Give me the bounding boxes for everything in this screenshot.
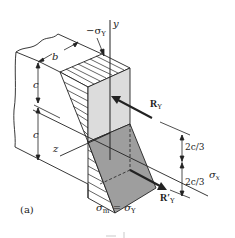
x-axis-label: σx xyxy=(209,169,220,182)
c-lower-label: c xyxy=(33,129,39,140)
cropped-next-figure-fragment xyxy=(106,232,124,238)
figure-label: (a) xyxy=(20,204,34,215)
z-axis-label: z xyxy=(52,143,59,154)
dim-upper-label: 2c/3 xyxy=(185,142,205,152)
top-stress-label: −σY xyxy=(86,25,106,38)
max-stress-equation: σm = σY xyxy=(96,202,136,215)
resultant-upper-label: RY xyxy=(150,98,162,111)
y-axis-label: y xyxy=(112,18,119,29)
dim-lower-label: 2c/3 xyxy=(185,177,205,187)
resultant-lower-label: R′Y xyxy=(160,192,175,205)
c-upper-label: c xyxy=(33,79,39,90)
width-label: b xyxy=(52,51,58,62)
dimension-c xyxy=(36,63,40,160)
beam-stress-diagram: y b c c z −σY RY R′Y 2c/3 2c/3 σx (a) σm… xyxy=(0,0,235,238)
